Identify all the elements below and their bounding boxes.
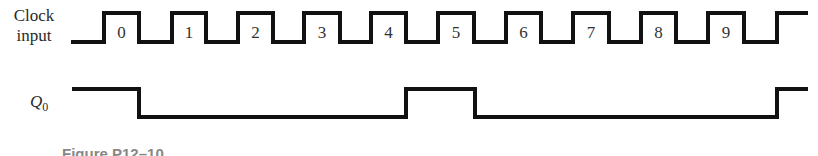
pulse-number-3: 3 <box>318 23 327 42</box>
figure-caption: Figure P12–10 <box>62 145 164 156</box>
pulse-number-5: 5 <box>452 23 461 42</box>
pulse-number-9: 9 <box>722 23 731 42</box>
pulse-number-2: 2 <box>251 23 260 42</box>
pulse-number-0: 0 <box>117 23 126 42</box>
pulse-number-1: 1 <box>185 23 194 42</box>
clock-waveform <box>71 13 808 42</box>
pulse-number-6: 6 <box>519 23 528 42</box>
pulse-number-4: 4 <box>384 23 393 42</box>
pulse-number-8: 8 <box>654 23 663 42</box>
q0-waveform <box>72 89 808 117</box>
pulse-number-7: 7 <box>587 23 596 42</box>
timing-waveforms: 0123456789 <box>0 0 818 156</box>
